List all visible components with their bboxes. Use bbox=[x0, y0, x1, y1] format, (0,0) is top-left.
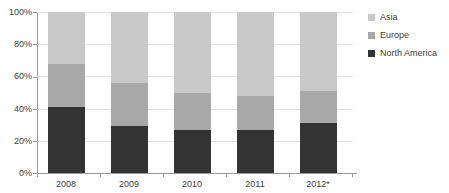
legend-item-europe[interactable]: Europe bbox=[368, 26, 449, 44]
x-tick-mark-0 bbox=[37, 173, 38, 177]
x-axis-label-2012: 2012* bbox=[288, 179, 348, 189]
stacked-bar-chart: 100% 80% 60% 40% 20% 0% 2008 2009 2010 2… bbox=[0, 0, 449, 193]
x-tick-mark-3 bbox=[226, 173, 227, 177]
bar-2009[interactable] bbox=[111, 12, 148, 173]
x-tick-mark-1 bbox=[100, 173, 101, 177]
bar-segment-asia-2010[interactable] bbox=[174, 12, 211, 93]
legend-label-asia: Asia bbox=[380, 13, 398, 22]
y-axis-label-0: 0% bbox=[2, 169, 32, 178]
legend-swatch-asia-icon bbox=[368, 14, 375, 21]
bar-segment-asia-2008[interactable] bbox=[48, 12, 85, 64]
bar-segment-north-america-2008[interactable] bbox=[48, 107, 85, 173]
x-tick-mark-5 bbox=[352, 173, 353, 177]
legend-label-north-america: North America bbox=[380, 49, 437, 58]
legend-swatch-europe-icon bbox=[368, 32, 375, 39]
bar-segment-asia-2011[interactable] bbox=[237, 12, 274, 96]
legend-label-europe: Europe bbox=[380, 31, 409, 40]
x-tick-mark-2 bbox=[163, 173, 164, 177]
bar-segment-europe-2010[interactable] bbox=[174, 93, 211, 130]
y-axis-labels: 100% 80% 60% 40% 20% 0% bbox=[0, 0, 32, 193]
bar-segment-north-america-2011[interactable] bbox=[237, 130, 274, 173]
x-axis-label-2011: 2011 bbox=[225, 179, 285, 189]
y-axis-label-60: 60% bbox=[2, 72, 32, 81]
x-axis-label-2009: 2009 bbox=[99, 179, 159, 189]
x-axis-line bbox=[37, 173, 357, 174]
bar-2012[interactable] bbox=[300, 12, 337, 173]
bar-2011[interactable] bbox=[237, 12, 274, 173]
bar-segment-asia-2012[interactable] bbox=[300, 12, 337, 91]
legend-item-north-america[interactable]: North America bbox=[368, 44, 449, 62]
legend-swatch-north-america-icon bbox=[368, 50, 375, 57]
bar-segment-europe-2009[interactable] bbox=[111, 83, 148, 126]
bar-segment-europe-2012[interactable] bbox=[300, 91, 337, 123]
bar-segment-europe-2008[interactable] bbox=[48, 64, 85, 107]
y-axis-label-40: 40% bbox=[2, 105, 32, 114]
bar-segment-north-america-2009[interactable] bbox=[111, 126, 148, 173]
plot-area bbox=[37, 12, 353, 173]
bar-segment-north-america-2010[interactable] bbox=[174, 130, 211, 173]
bar-segment-north-america-2012[interactable] bbox=[300, 123, 337, 173]
x-axis-label-2010: 2010 bbox=[162, 179, 222, 189]
chart-legend: Asia Europe North America bbox=[368, 8, 449, 62]
legend-item-asia[interactable]: Asia bbox=[368, 8, 449, 26]
y-axis-label-20: 20% bbox=[2, 137, 32, 146]
y-axis-label-80: 80% bbox=[2, 40, 32, 49]
bar-segment-asia-2009[interactable] bbox=[111, 12, 148, 83]
bar-2010[interactable] bbox=[174, 12, 211, 173]
y-axis-label-100: 100% bbox=[2, 8, 32, 17]
x-axis-label-2008: 2008 bbox=[36, 179, 96, 189]
bar-segment-europe-2011[interactable] bbox=[237, 96, 274, 130]
bar-2008[interactable] bbox=[48, 12, 85, 173]
x-tick-mark-4 bbox=[289, 173, 290, 177]
